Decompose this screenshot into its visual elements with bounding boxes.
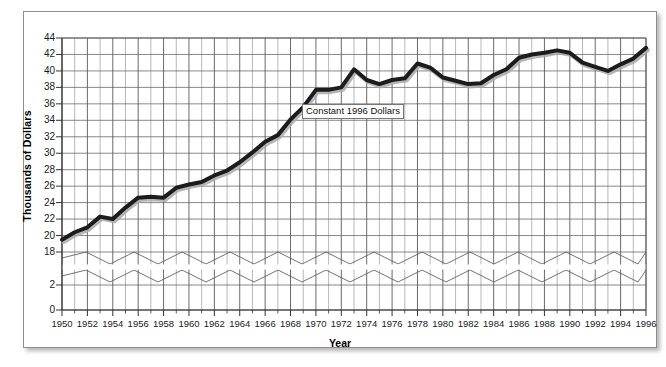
y-axis-tick-label: 26: [31, 180, 55, 191]
y-axis-tick-label: 38: [31, 81, 55, 92]
y-axis-tick-label: 34: [31, 114, 55, 125]
y-axis-tick-label: 0: [31, 304, 55, 315]
plot-area: Thousands of Dollars Year Constant 1996 …: [0, 0, 666, 367]
y-axis-tick-label: 30: [31, 147, 55, 158]
y-axis-tick-label: 28: [31, 164, 55, 175]
y-axis-tick-label: 2: [31, 279, 55, 290]
y-axis-tick-label: 20: [31, 230, 55, 241]
y-axis-tick-label: 24: [31, 197, 55, 208]
series-annotation-label: Constant 1996 Dollars: [302, 104, 404, 119]
y-axis-tick-label: 44: [31, 32, 55, 43]
x-axis-tick-label: 1996: [630, 318, 662, 329]
y-axis-tick-label: 40: [31, 65, 55, 76]
y-axis-tick-label: 32: [31, 131, 55, 142]
y-axis-tick-label: 36: [31, 98, 55, 109]
chart-canvas: [0, 0, 666, 367]
y-axis-tick-label: 22: [31, 213, 55, 224]
chart-figure: Thousands of Dollars Year Constant 1996 …: [0, 0, 666, 367]
x-axis-title: Year: [300, 337, 380, 349]
y-axis-tick-label: 42: [31, 48, 55, 59]
y-axis-tick-label: 18: [31, 246, 55, 257]
